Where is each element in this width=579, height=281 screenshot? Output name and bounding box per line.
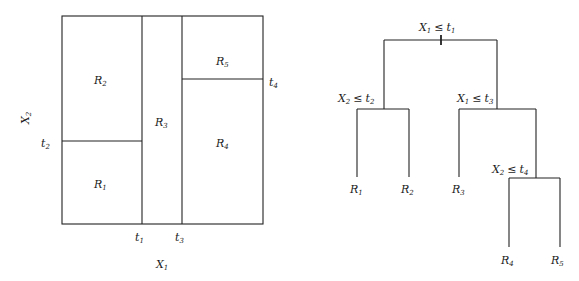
decision-tree: X1≤t1 X2≤t2 X1≤t3 X2≤t4 R1 R2 R3 R4 R5 [337, 21, 564, 268]
region-label-r2: R2 [93, 74, 107, 88]
threshold-label-t3: t3 [175, 231, 184, 245]
leaf-label-r2: R2 [400, 183, 414, 197]
partition-plot: R2 R1 R3 R5 R4 t4 t2 t1 t3 X1 X2 [19, 16, 278, 272]
left-split-label: X2≤t2 [337, 92, 375, 106]
threshold-label-t2: t2 [41, 137, 50, 151]
leaf-label-r3: R3 [451, 183, 465, 197]
y-axis-label: X2 [19, 111, 33, 125]
leaf-label-r5: R5 [550, 254, 564, 268]
x-axis-label: X1 [155, 258, 168, 272]
right-split-label: X1≤t3 [456, 92, 494, 106]
region-label-r3: R3 [154, 116, 168, 130]
root-split-label: X1≤t1 [418, 21, 455, 35]
region-label-r1: R1 [93, 178, 107, 192]
region-label-r4: R4 [215, 137, 229, 151]
leaf-label-r4: R4 [500, 254, 514, 268]
threshold-label-t4: t4 [269, 76, 278, 90]
region-label-r5: R5 [215, 55, 229, 69]
rr-split-label: X2≤t4 [491, 163, 528, 177]
decision-tree-figure: R2 R1 R3 R5 R4 t4 t2 t1 t3 X1 X2 X1≤t1 X… [0, 0, 579, 281]
threshold-label-t1: t1 [135, 231, 144, 245]
leaf-label-r1: R1 [349, 183, 363, 197]
